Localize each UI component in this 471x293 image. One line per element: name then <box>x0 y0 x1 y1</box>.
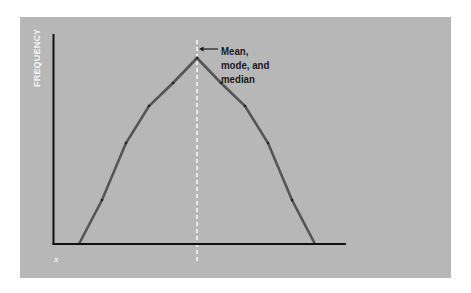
annotation-line-3: median <box>221 72 269 86</box>
annotation-line-2: mode, and <box>221 58 269 72</box>
data-point <box>125 142 128 145</box>
annotation-line-1: Mean, <box>221 44 269 58</box>
data-point <box>244 105 247 108</box>
mean-mode-median-annotation: Mean, mode, and median <box>221 44 269 86</box>
annotation-arrow-icon <box>199 47 218 52</box>
data-point <box>291 199 294 202</box>
data-point <box>101 199 104 202</box>
x-axis-label: x <box>54 255 58 265</box>
data-point <box>196 57 199 60</box>
y-axis-label: FREQUENCY <box>31 37 43 87</box>
data-point <box>172 82 175 85</box>
data-point <box>267 142 270 145</box>
data-point <box>148 105 151 108</box>
